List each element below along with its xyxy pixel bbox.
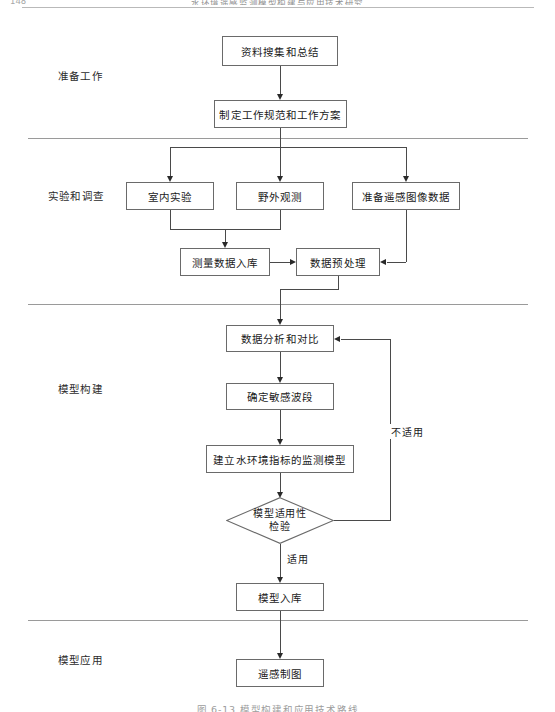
node-data-collection[interactable]: 资料搜集和总结 xyxy=(222,36,338,66)
applicability-line-2: 检验 xyxy=(269,521,291,534)
node-work-plan[interactable]: 制定工作规范和工作方案 xyxy=(214,100,347,128)
arrowhead-left-to-preprocess xyxy=(380,259,386,265)
section-label-application: 模型应用 xyxy=(58,652,103,667)
edge-label-not-applicable: 不适用 xyxy=(389,424,426,439)
edge-indoor-down xyxy=(170,210,171,229)
edge-label-applicable: 适用 xyxy=(285,551,311,566)
node-field-observation[interactable]: 野外观测 xyxy=(236,182,324,210)
figure-canvas: 148 水环境遥感监测模型构建与应用技术研究 准备工作 实验和调查 模型构建 模… xyxy=(0,0,555,712)
running-head: 水环境遥感监测模型构建与应用技术研究 xyxy=(0,0,555,5)
node-applicability-test[interactable]: 模型适用性 检验 xyxy=(226,497,334,544)
node-rs-mapping[interactable]: 遥感制图 xyxy=(236,659,324,687)
node-indoor-experiment[interactable]: 室内实验 xyxy=(126,182,214,210)
edge-preprocess-to-center xyxy=(280,289,339,290)
edge-bus-to-rsimage xyxy=(406,147,407,179)
edge-decision-not-applicable xyxy=(334,520,390,521)
applicability-line-1: 模型适用性 xyxy=(253,508,307,521)
edge-collection-to-plan xyxy=(280,66,281,97)
edge-fanout-bus xyxy=(170,147,406,148)
edge-modeldb-to-mapping xyxy=(280,611,281,656)
section-divider-1 xyxy=(28,138,528,139)
section-label-modeling: 模型构建 xyxy=(58,381,103,396)
edge-analysis-to-band xyxy=(280,352,281,380)
edge-band-to-model xyxy=(280,410,281,442)
edge-center-to-analysis xyxy=(280,289,281,322)
node-measure-db[interactable]: 测量数据入库 xyxy=(180,248,270,276)
node-build-model[interactable]: 建立水环境指标的监测模型 xyxy=(206,445,354,473)
section-divider-3 xyxy=(28,620,528,621)
section-label-experiment: 实验和调查 xyxy=(48,188,104,203)
node-analysis-compare[interactable]: 数据分析和对比 xyxy=(226,325,334,352)
applicability-test-label: 模型适用性 检验 xyxy=(226,497,334,544)
edge-decision-applicable xyxy=(280,544,281,580)
figure-caption: 图 6-13 模型构建和应用技术路线 xyxy=(0,702,555,712)
edge-preprocess-down xyxy=(338,276,339,289)
edge-bus-to-indoor xyxy=(170,147,171,179)
section-label-preparation: 准备工作 xyxy=(58,68,103,83)
section-divider-2 xyxy=(28,304,528,305)
node-preprocess[interactable]: 数据预处理 xyxy=(296,248,380,276)
edge-rsimage-to-preprocess xyxy=(387,262,406,263)
edge-feedback-return xyxy=(341,339,391,340)
edge-rsimage-down xyxy=(406,210,407,262)
node-prepare-rs-image[interactable]: 准备遥感图像数据 xyxy=(352,182,460,210)
edge-plan-to-bus xyxy=(280,128,281,147)
node-sensitive-band[interactable]: 确定敏感波段 xyxy=(226,383,334,410)
node-model-db[interactable]: 模型入库 xyxy=(236,583,324,611)
arrowhead-left-to-analysis xyxy=(334,336,340,342)
running-head-rule xyxy=(22,7,534,8)
edge-field-down xyxy=(280,210,281,229)
edge-bus-to-field xyxy=(280,147,281,179)
